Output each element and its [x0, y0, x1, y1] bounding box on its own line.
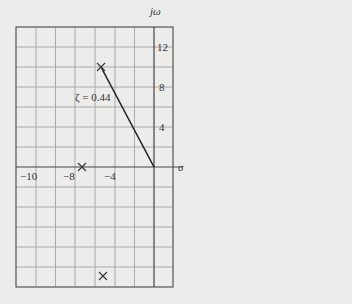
damping-ratio-line	[101, 67, 154, 167]
x-tick-minus-10: −10	[20, 170, 38, 182]
y-tick-8: 8	[159, 81, 165, 93]
root-locus-plot: jω σ ζ = 0.44 12 8 4 −10 −8 −4	[0, 0, 352, 304]
sigma-axis-label: σ	[178, 161, 184, 173]
pole-marker	[99, 272, 107, 280]
jw-axis-label: jω	[148, 5, 161, 17]
y-tick-4: 4	[159, 121, 165, 133]
x-tick-minus-4: −4	[104, 170, 116, 182]
zeta-label: ζ = 0.44	[75, 91, 111, 104]
x-tick-minus-8: −8	[63, 170, 75, 182]
y-tick-12: 12	[157, 41, 168, 53]
